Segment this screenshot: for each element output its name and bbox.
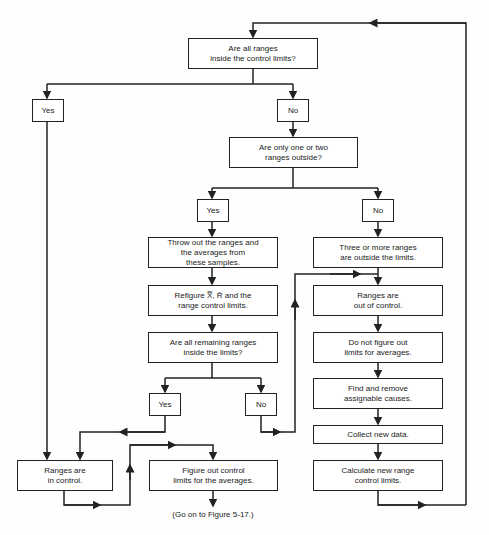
step-figure-out-average-limits: Figure out control limits for the averag…	[149, 460, 278, 491]
yes-label-3: Yes	[149, 393, 181, 416]
decision-all-ranges-inside: Are all ranges inside the control limits…	[188, 38, 318, 69]
no-label-1: No	[277, 99, 309, 122]
result-ranges-in-control: Ranges are in control.	[17, 460, 113, 491]
step-collect-new-data: Collect new data.	[313, 425, 443, 444]
step-ranges-out-of-control: Ranges are out of control.	[313, 285, 443, 316]
step-calculate-new-limits: Calculate new range control limits.	[313, 460, 443, 491]
figure-continuation-caption: (Go on to Figure 5-17.)	[150, 510, 276, 519]
step-do-not-figure-averages: Do not figure out limits for averages.	[313, 332, 443, 363]
no-label-2: No	[362, 199, 394, 222]
no-label-3: No	[245, 393, 277, 416]
step-three-or-more-outside: Three or more ranges are outside the lim…	[313, 237, 443, 268]
decision-remaining-inside: Are all remaining ranges inside the limi…	[148, 332, 278, 363]
yes-label-2: Yes	[197, 199, 229, 222]
step-refigure-limits: Refigure X̿, R̄ and the range control li…	[148, 285, 278, 316]
yes-label-1: Yes	[32, 99, 64, 122]
step-throw-out-ranges: Throw out the ranges and the averages fr…	[148, 237, 278, 268]
decision-one-or-two-outside: Are only one or two ranges outside?	[229, 137, 358, 168]
step-find-remove-causes: Find and remove assignable causes.	[313, 378, 443, 409]
